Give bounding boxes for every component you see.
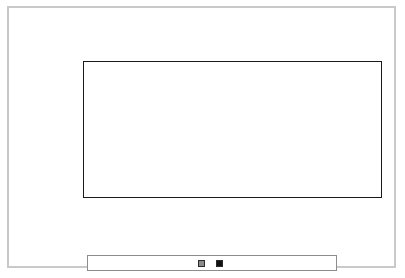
area-chart-svg — [84, 62, 381, 197]
y-axis-label — [34, 78, 48, 188]
legend-item-material-used[interactable] — [198, 260, 209, 267]
legend-swatch-gray-icon — [198, 260, 205, 267]
plot-area — [83, 61, 382, 198]
chart-legend — [87, 255, 337, 271]
legend-item-ie-use[interactable] — [216, 260, 227, 267]
chart-frame — [7, 6, 396, 268]
legend-swatch-black-icon — [216, 260, 223, 267]
